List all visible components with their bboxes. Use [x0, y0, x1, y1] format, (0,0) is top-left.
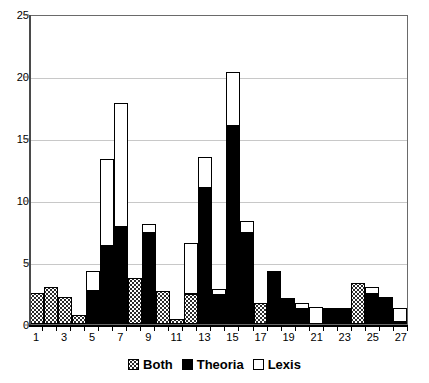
bar-segment-both	[44, 287, 58, 324]
legend-swatch-both-icon	[128, 359, 139, 370]
bar-column	[170, 16, 184, 324]
x-tick-label: 7	[113, 330, 127, 344]
bar-column	[226, 16, 240, 324]
bars-layer	[30, 16, 407, 324]
bar-column	[100, 16, 114, 324]
bar-column	[323, 16, 337, 324]
plot-area	[29, 15, 408, 325]
x-tick-label: 1	[29, 330, 43, 344]
x-tick-label: 5	[85, 330, 99, 344]
bar-segment-both	[184, 294, 198, 324]
bar-segment-theoria	[212, 295, 226, 324]
bar-column	[142, 16, 156, 324]
bar-column	[267, 16, 281, 324]
bar-segment-lexis	[226, 72, 240, 125]
bar-column	[198, 16, 212, 324]
chart-legend: BothTheoriaLexis	[0, 358, 429, 371]
stacked-bar-chart: 0510152025 12345678910111213141516171819…	[0, 0, 429, 383]
bar-column	[184, 16, 198, 324]
x-tick-label: 27	[394, 330, 408, 344]
bar-segment-lexis	[267, 271, 281, 273]
bar-column	[254, 16, 268, 324]
bar-column	[212, 16, 226, 324]
bar-segment-both	[254, 303, 268, 324]
bar-segment-theoria	[323, 308, 337, 324]
bar-column	[295, 16, 309, 324]
legend-swatch-theoria-icon	[182, 359, 193, 370]
legend-item-lexis: Lexis	[253, 358, 301, 371]
bar-segment-both	[393, 322, 407, 324]
x-tick-label: 19	[282, 330, 296, 344]
bar-segment-theoria	[114, 227, 128, 324]
bar-segment-theoria	[86, 291, 100, 324]
bar-segment-theoria	[379, 297, 393, 324]
y-axis: 0510152025	[0, 0, 29, 383]
bar-segment-both	[72, 315, 86, 324]
bar-segment-lexis	[295, 303, 309, 309]
bar-column	[365, 16, 379, 324]
bar-column	[379, 16, 393, 324]
bar-column	[281, 16, 295, 324]
bar-segment-both	[128, 278, 142, 324]
bar-segment-lexis	[100, 159, 114, 246]
x-tick-label: 17	[254, 330, 268, 344]
bar-segment-theoria	[365, 294, 379, 324]
legend-item-theoria: Theoria	[182, 358, 244, 371]
bar-segment-lexis	[365, 287, 379, 294]
bar-column	[393, 16, 407, 324]
bar-column	[128, 16, 142, 324]
legend-label: Lexis	[268, 358, 301, 371]
bar-segment-lexis	[86, 271, 100, 291]
bar-column	[351, 16, 365, 324]
bar-segment-lexis	[184, 243, 198, 294]
bar-column	[156, 16, 170, 324]
bar-segment-theoria	[100, 246, 114, 324]
x-tick-label: 3	[57, 330, 71, 344]
bar-segment-theoria	[267, 273, 281, 324]
bar-segment-lexis	[114, 103, 128, 227]
bar-segment-lexis	[142, 224, 156, 234]
x-tick-label: 23	[338, 330, 352, 344]
bar-column	[44, 16, 58, 324]
bar-segment-lexis	[198, 157, 212, 188]
bar-column	[309, 16, 323, 324]
bar-segment-theoria	[198, 188, 212, 324]
legend-label: Theoria	[197, 358, 244, 371]
bar-segment-both	[156, 291, 170, 324]
bar-segment-both	[170, 319, 184, 324]
x-tick-label: 13	[197, 330, 211, 344]
bar-column	[240, 16, 254, 324]
x-axis-labels: 1234567891011121314151617181920212223242…	[29, 330, 408, 348]
bar-segment-lexis	[212, 289, 226, 295]
bar-segment-both	[58, 297, 72, 324]
bar-segment-theoria	[337, 308, 351, 324]
x-tick-label: 21	[310, 330, 324, 344]
bar-segment-lexis	[281, 298, 295, 300]
bar-column	[58, 16, 72, 324]
x-tick-label: 15	[225, 330, 239, 344]
bar-segment-lexis	[393, 308, 407, 322]
bar-column	[72, 16, 86, 324]
legend-item-both: Both	[128, 358, 173, 371]
bar-segment-theoria	[240, 233, 254, 324]
y-axis-line	[29, 15, 31, 326]
bar-column	[30, 16, 44, 324]
x-tick-label: 9	[141, 330, 155, 344]
bar-segment-both	[30, 293, 44, 324]
bar-segment-lexis	[240, 221, 254, 233]
bar-column	[337, 16, 351, 324]
x-tick-label: 25	[366, 330, 380, 344]
legend-swatch-lexis-icon	[253, 359, 264, 370]
bar-segment-lexis	[309, 307, 323, 324]
bar-segment-theoria	[281, 300, 295, 324]
bar-segment-both	[351, 283, 365, 324]
bar-segment-theoria	[226, 126, 240, 324]
bar-column	[86, 16, 100, 324]
bar-segment-theoria	[295, 309, 309, 324]
bar-column	[114, 16, 128, 324]
x-tick-label: 11	[169, 330, 183, 344]
bar-segment-theoria	[142, 233, 156, 324]
legend-label: Both	[143, 358, 173, 371]
